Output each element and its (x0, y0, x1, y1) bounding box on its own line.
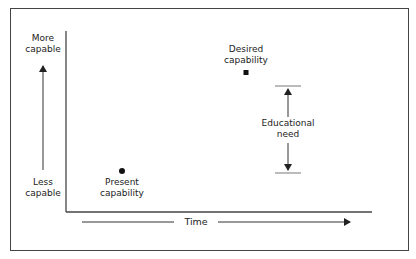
present-capability-marker (119, 168, 125, 174)
less-capable-line1: Less (24, 177, 62, 188)
educational-line1: Educational (259, 118, 317, 129)
less-capable-label: Less capable (24, 177, 62, 199)
more-capable-line1: More (25, 33, 61, 44)
more-capable-line2: capable (25, 44, 61, 55)
less-capable-line2: capable (24, 188, 62, 199)
educational-need-label: Educational need (259, 118, 317, 140)
present-line2: capability (97, 188, 147, 199)
desired-line2: capability (221, 55, 271, 66)
present-capability-label: Present capability (97, 177, 147, 199)
desired-capability-label: Desired capability (221, 44, 271, 66)
present-line1: Present (97, 177, 147, 188)
educational-line2: need (259, 129, 317, 140)
more-capable-label: More capable (25, 33, 61, 55)
desired-capability-marker (244, 70, 249, 75)
desired-line1: Desired (221, 44, 271, 55)
time-label: Time (178, 216, 214, 227)
